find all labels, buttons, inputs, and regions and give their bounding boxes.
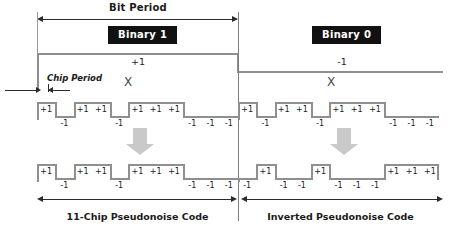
chip-bottom-right-value-0: -1 <box>238 181 256 190</box>
chip-bottom-left-level-6 <box>147 164 165 166</box>
chip-bottom-right-value-9: +1 <box>402 167 420 176</box>
chip-bottom-left-level-1 <box>55 178 73 180</box>
chip-top-left-level-7 <box>165 102 183 104</box>
chip-top-right-level-10 <box>421 116 439 118</box>
bit-period-dimension-line <box>41 19 237 20</box>
chip-bottom-left-value-3: +1 <box>92 167 110 176</box>
chip-top-left-value-3: +1 <box>92 105 110 114</box>
chip-waveform-row-bottom-left: +1-1+1+1-1+1+1+1-1-1-1 <box>37 160 238 186</box>
bit-period-tick-left <box>37 12 38 56</box>
chip-waveform-row-top-right: +1-1+1+1-1+1+1+1-1-1-1 <box>238 98 439 124</box>
chip-bottom-right-value-8: +1 <box>384 167 402 176</box>
chip-period-label: Chip Period <box>47 73 102 83</box>
chip-top-left-value-5: +1 <box>128 105 146 114</box>
chip-bottom-left-value-9: -1 <box>201 181 219 190</box>
chip-top-right-level-6 <box>348 102 366 104</box>
chip-top-right-level-4 <box>311 116 329 118</box>
chip-bottom-right-level-3 <box>293 178 311 180</box>
chip-top-right-value-5: +1 <box>329 105 347 114</box>
down-arrow-right <box>330 128 358 155</box>
chip-top-right-level-8 <box>384 116 402 118</box>
chip-period-pointer-line <box>5 90 37 91</box>
chip-top-right-value-7: +1 <box>366 105 384 114</box>
chip-top-right-level-0 <box>238 102 256 104</box>
chip-bottom-left-level-5 <box>128 164 146 166</box>
chip-bottom-right-value-2: -1 <box>275 181 293 190</box>
chip-bottom-left-value-6: +1 <box>147 167 165 176</box>
chip-bottom-right-value-6: -1 <box>348 181 366 190</box>
amplitude-label-negative: -1 <box>312 56 372 67</box>
chip-period-span-tick <box>48 84 49 92</box>
chip-bottom-right-value-10: +1 <box>421 167 439 176</box>
chip-bottom-left-value-8: -1 <box>183 181 201 190</box>
chip-bottom-right-edge-2 <box>275 164 277 180</box>
chip-bottom-right-value-1: +1 <box>256 167 274 176</box>
amplitude-label-positive: +1 <box>108 56 168 67</box>
chip-top-left-level-8 <box>183 116 201 118</box>
chip-top-left-level-0 <box>37 102 55 104</box>
chip-bottom-left-value-1: -1 <box>55 181 73 190</box>
chip-top-left-level-9 <box>201 116 219 118</box>
chip-top-right-edge-1 <box>256 102 258 118</box>
chip-bottom-left-level-3 <box>92 164 110 166</box>
chip-top-left-level-1 <box>55 116 73 118</box>
chip-top-left-level-6 <box>147 102 165 104</box>
chip-top-left-value-6: +1 <box>147 105 165 114</box>
chip-top-left-level-4 <box>110 116 128 118</box>
data-signal-left-edge <box>37 53 39 89</box>
chip-top-left-edge-8 <box>183 102 185 118</box>
chip-bottom-left-edge-4 <box>110 164 112 180</box>
chip-top-right-value-9: -1 <box>402 119 420 128</box>
chip-bottom-left-level-2 <box>74 164 92 166</box>
chip-bottom-right-value-4: +1 <box>311 167 329 176</box>
chip-top-right-level-9 <box>402 116 420 118</box>
chip-top-right-value-10: -1 <box>421 119 439 128</box>
chip-top-left-value-8: -1 <box>183 119 201 128</box>
chip-waveform-row-bottom-right: -1+1-1-1+1-1-1-1+1+1+1 <box>238 160 439 186</box>
caption-pseudonoise-code: 11-Chip Pseudonoise Code <box>37 211 238 222</box>
bottom-arrow-left-start <box>37 196 43 202</box>
multiply-symbol-left: X <box>124 75 132 89</box>
data-signal-high-level <box>37 53 238 55</box>
chip-top-left-level-2 <box>74 102 92 104</box>
chip-bottom-left-level-0 <box>37 164 55 166</box>
chip-top-right-value-3: +1 <box>293 105 311 114</box>
data-signal-low-level <box>237 71 443 73</box>
bottom-dimension-line-left <box>41 199 234 200</box>
chip-top-right-value-0: +1 <box>238 105 256 114</box>
chip-top-right-edge-8 <box>384 102 386 118</box>
chip-top-left-edge-1 <box>55 102 57 118</box>
chip-bottom-right-value-3: -1 <box>293 181 311 190</box>
chip-waveform-row-top-left: +1-1+1+1-1+1+1+1-1-1-1 <box>37 98 238 124</box>
chip-bottom-left-edge-1 <box>55 164 57 180</box>
chip-top-right-level-1 <box>256 116 274 118</box>
chip-bottom-left-value-2: +1 <box>74 167 92 176</box>
chip-bottom-right-level-8 <box>384 164 402 166</box>
chip-top-right-level-7 <box>366 102 384 104</box>
caption-inverted-pseudonoise-code: Inverted Pseudonoise Code <box>238 211 443 222</box>
chip-bottom-right-level-1 <box>256 164 274 166</box>
chip-top-left-value-0: +1 <box>37 105 55 114</box>
binary-1-badge: Binary 1 <box>108 26 177 44</box>
chip-top-left-edge-4 <box>110 102 112 118</box>
chip-bottom-right-level-9 <box>402 164 420 166</box>
chip-top-left-level-5 <box>128 102 146 104</box>
chip-top-right-value-2: +1 <box>275 105 293 114</box>
binary-0-badge: Binary 0 <box>312 26 381 44</box>
chip-top-right-level-3 <box>293 102 311 104</box>
chip-bottom-right-level-6 <box>348 178 366 180</box>
chip-top-right-value-1: -1 <box>256 119 274 128</box>
chip-bottom-left-level-10 <box>220 178 238 180</box>
chip-top-left-level-3 <box>92 102 110 104</box>
chip-top-left-level-10 <box>220 116 238 118</box>
bit-period-label: Bit Period <box>0 2 276 13</box>
chip-top-left-value-4: -1 <box>110 119 128 128</box>
chip-bottom-left-level-9 <box>201 178 219 180</box>
chip-period-pointer-head <box>36 87 41 93</box>
bottom-arrow-right-start <box>241 196 247 202</box>
chip-bottom-left-value-5: +1 <box>128 167 146 176</box>
chip-top-right-value-6: +1 <box>348 105 366 114</box>
multiply-symbol-right: X <box>327 75 335 89</box>
chip-bottom-right-value-7: -1 <box>366 181 384 190</box>
chip-top-right-value-8: -1 <box>384 119 402 128</box>
